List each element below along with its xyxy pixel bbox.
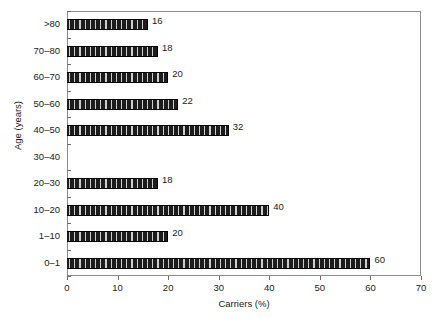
bar-value-label: 20 bbox=[172, 68, 183, 79]
x-axis-title: Carriers (%) bbox=[67, 298, 421, 309]
bar-value-label: 20 bbox=[172, 227, 183, 238]
y-tick-label: 70–80 bbox=[0, 45, 60, 56]
x-tick-label: 70 bbox=[401, 282, 441, 294]
y-tick-mark bbox=[67, 223, 71, 224]
bar[interactable] bbox=[67, 178, 158, 189]
bar[interactable] bbox=[67, 231, 168, 242]
y-tick-label: 30–40 bbox=[0, 151, 60, 162]
y-tick-label: 10–20 bbox=[0, 204, 60, 215]
x-tick-mark bbox=[219, 276, 220, 280]
x-tick-mark bbox=[67, 276, 68, 280]
y-tick-mark bbox=[67, 38, 71, 39]
bar-value-label: 18 bbox=[162, 42, 173, 53]
y-tick-mark bbox=[67, 117, 71, 118]
bar[interactable] bbox=[67, 125, 229, 136]
bar-value-label: 60 bbox=[374, 254, 385, 265]
y-tick-label: >80 bbox=[0, 18, 60, 29]
x-tick-mark bbox=[168, 276, 169, 280]
x-tick-mark bbox=[370, 276, 371, 280]
bar[interactable] bbox=[67, 19, 148, 30]
y-tick-label: 0–1 bbox=[0, 257, 60, 268]
bar[interactable] bbox=[67, 205, 269, 216]
y-tick-label: 1–10 bbox=[0, 230, 60, 241]
x-tick-label: 20 bbox=[148, 282, 188, 294]
x-tick-label: 30 bbox=[199, 282, 239, 294]
x-tick-mark bbox=[421, 276, 422, 280]
y-tick-label: 60–70 bbox=[0, 71, 60, 82]
y-tick-mark bbox=[67, 250, 71, 251]
x-tick-label: 10 bbox=[98, 282, 138, 294]
x-tick-mark bbox=[118, 276, 119, 280]
bar-chart-figure: Age (years) Carriers (%) >8070–8060–7050… bbox=[0, 0, 445, 318]
y-tick-label: 20–30 bbox=[0, 177, 60, 188]
x-tick-label: 40 bbox=[249, 282, 289, 294]
y-tick-label: 50–60 bbox=[0, 98, 60, 109]
bar[interactable] bbox=[67, 99, 178, 110]
y-tick-mark bbox=[67, 144, 71, 145]
bar-value-label: 16 bbox=[152, 15, 163, 26]
bar[interactable] bbox=[67, 46, 158, 57]
y-tick-mark bbox=[67, 11, 71, 12]
bar-value-label: 22 bbox=[182, 95, 193, 106]
y-tick-mark bbox=[67, 91, 71, 92]
x-tick-mark bbox=[320, 276, 321, 280]
x-tick-label: 0 bbox=[47, 282, 87, 294]
x-tick-mark bbox=[269, 276, 270, 280]
bar-value-label: 40 bbox=[273, 201, 284, 212]
bar-value-label: 32 bbox=[233, 121, 244, 132]
bar[interactable] bbox=[67, 72, 168, 83]
y-tick-mark bbox=[67, 64, 71, 65]
bar[interactable] bbox=[67, 258, 370, 269]
x-tick-label: 50 bbox=[300, 282, 340, 294]
y-tick-mark bbox=[67, 197, 71, 198]
y-tick-mark bbox=[67, 170, 71, 171]
y-tick-label: 40–50 bbox=[0, 124, 60, 135]
bar-value-label: 18 bbox=[162, 174, 173, 185]
x-tick-label: 60 bbox=[350, 282, 390, 294]
